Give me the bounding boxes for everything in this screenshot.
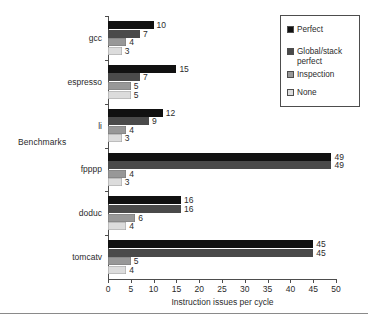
x-axis-tick-label: 30 bbox=[240, 284, 249, 294]
bar-value-label: 9 bbox=[152, 117, 157, 125]
bar-value-label: 4 bbox=[129, 266, 134, 274]
bar bbox=[108, 30, 140, 38]
bar-value-label: 4 bbox=[129, 170, 134, 178]
category-label: tomcatv bbox=[72, 252, 102, 262]
bar-value-label: 45 bbox=[316, 240, 325, 248]
bar bbox=[108, 266, 126, 274]
bar bbox=[108, 170, 126, 178]
x-axis-tick bbox=[199, 280, 200, 283]
bar-value-label: 3 bbox=[125, 178, 130, 186]
bar bbox=[108, 222, 126, 230]
legend-label: Inspection bbox=[297, 70, 334, 80]
bar-value-label: 6 bbox=[138, 214, 143, 222]
x-axis-tick-label: 15 bbox=[172, 284, 181, 294]
bar-value-label: 16 bbox=[184, 205, 193, 213]
x-axis-tick-label: 50 bbox=[331, 284, 340, 294]
y-axis-tick bbox=[105, 104, 108, 105]
x-axis-tick bbox=[108, 280, 109, 283]
footer-divider bbox=[0, 313, 368, 314]
x-axis-tick-label: 0 bbox=[106, 284, 111, 294]
bar-value-label: 3 bbox=[125, 47, 130, 55]
x-axis-tick bbox=[176, 280, 177, 283]
x-axis-tick bbox=[245, 280, 246, 283]
bar-group: li12943 bbox=[108, 104, 336, 148]
bar-value-label: 15 bbox=[179, 65, 188, 73]
category-label: fpppp bbox=[81, 164, 102, 174]
x-axis-tick-label: 35 bbox=[263, 284, 272, 294]
bar-value-label: 7 bbox=[143, 73, 148, 81]
y-axis-tick bbox=[105, 148, 108, 149]
y-axis-tick bbox=[105, 235, 108, 236]
legend-entry[interactable]: None bbox=[287, 88, 317, 98]
bar bbox=[108, 205, 181, 213]
bar bbox=[108, 240, 313, 248]
bar-group: tomcatv454554 bbox=[108, 235, 336, 279]
bar-value-label: 4 bbox=[129, 38, 134, 46]
chart-legend: PerfectGlobal/stack perfectInspectionNon… bbox=[280, 15, 360, 107]
bar-value-label: 10 bbox=[157, 21, 166, 29]
legend-swatch-icon bbox=[287, 71, 294, 78]
bar bbox=[108, 82, 131, 90]
bar bbox=[108, 126, 126, 134]
bar-group: fpppp494943 bbox=[108, 148, 336, 192]
category-label: li bbox=[98, 121, 102, 131]
bar-value-label: 4 bbox=[129, 222, 134, 230]
legend-label: None bbox=[297, 88, 317, 98]
bar-value-label: 5 bbox=[134, 257, 139, 265]
bar-value-label: 5 bbox=[134, 82, 139, 90]
bar-value-label: 5 bbox=[134, 91, 139, 99]
bar bbox=[108, 153, 331, 161]
category-label: gcc bbox=[89, 33, 102, 43]
x-axis-tick-label: 45 bbox=[308, 284, 317, 294]
legend-swatch-icon bbox=[287, 89, 294, 96]
bar bbox=[108, 21, 154, 29]
x-axis-tick bbox=[336, 280, 337, 283]
legend-entry[interactable]: Global/stack perfect bbox=[287, 47, 342, 66]
bar bbox=[108, 178, 122, 186]
bar-value-label: 7 bbox=[143, 30, 148, 38]
bar-value-label: 3 bbox=[125, 134, 130, 142]
x-axis-tick bbox=[222, 280, 223, 283]
legend-label: Global/stack perfect bbox=[297, 47, 342, 66]
legend-swatch-icon bbox=[287, 48, 294, 55]
category-label: espresso bbox=[68, 77, 103, 87]
y-axis-tick bbox=[105, 191, 108, 192]
y-axis-tick bbox=[105, 16, 108, 17]
bar-value-label: 12 bbox=[166, 109, 175, 117]
bar bbox=[108, 91, 131, 99]
x-axis-label: Instruction issues per cycle bbox=[108, 297, 337, 307]
bar-value-label: 4 bbox=[129, 126, 134, 134]
y-axis-tick bbox=[105, 60, 108, 61]
legend-entry[interactable]: Inspection bbox=[287, 70, 334, 80]
x-axis-tick bbox=[131, 280, 132, 283]
bar-value-label: 45 bbox=[316, 249, 325, 257]
legend-swatch-icon bbox=[287, 26, 294, 33]
bar bbox=[108, 134, 122, 142]
x-axis-tick-label: 40 bbox=[286, 284, 295, 294]
bar bbox=[108, 257, 131, 265]
x-axis-tick bbox=[290, 280, 291, 283]
chart-figure: Benchmarks gcc10743espresso15755li12943f… bbox=[0, 0, 368, 327]
x-axis-tick bbox=[154, 280, 155, 283]
legend-label: Perfect bbox=[297, 25, 323, 35]
bar bbox=[108, 161, 331, 169]
x-axis-tick bbox=[313, 280, 314, 283]
x-axis-tick-label: 20 bbox=[194, 284, 203, 294]
legend-entry[interactable]: Perfect bbox=[287, 25, 323, 35]
x-axis-tick-label: 10 bbox=[149, 284, 158, 294]
bar bbox=[108, 38, 126, 46]
bar-value-label: 49 bbox=[334, 161, 343, 169]
y-axis-label: Benchmarks bbox=[18, 137, 66, 147]
x-axis-tick-label: 25 bbox=[217, 284, 226, 294]
x-axis-tick-label: 5 bbox=[128, 284, 133, 294]
bar-group: doduc161664 bbox=[108, 191, 336, 235]
category-label: doduc bbox=[79, 208, 102, 218]
bar bbox=[108, 47, 122, 55]
bar bbox=[108, 196, 181, 204]
x-axis-tick bbox=[268, 280, 269, 283]
